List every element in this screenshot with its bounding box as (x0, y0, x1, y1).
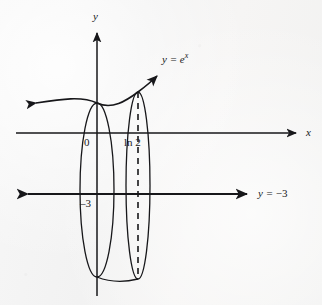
figure-canvas: y x y = ex 0 ln 2 –3 y = −3 (0, 0, 322, 305)
diagram-svg (0, 0, 322, 305)
y-axis-label: y (93, 11, 98, 22)
axis-of-revolution-label: y = −3 (258, 188, 288, 199)
x-axis-label: x (306, 127, 311, 138)
left-bound-label: 0 (84, 137, 90, 148)
curve-label: y = ex (162, 52, 188, 65)
solid-bottom-edge (97, 277, 138, 281)
lower-bound-label: –3 (80, 198, 91, 209)
right-bound-label: ln 2 (124, 137, 141, 148)
